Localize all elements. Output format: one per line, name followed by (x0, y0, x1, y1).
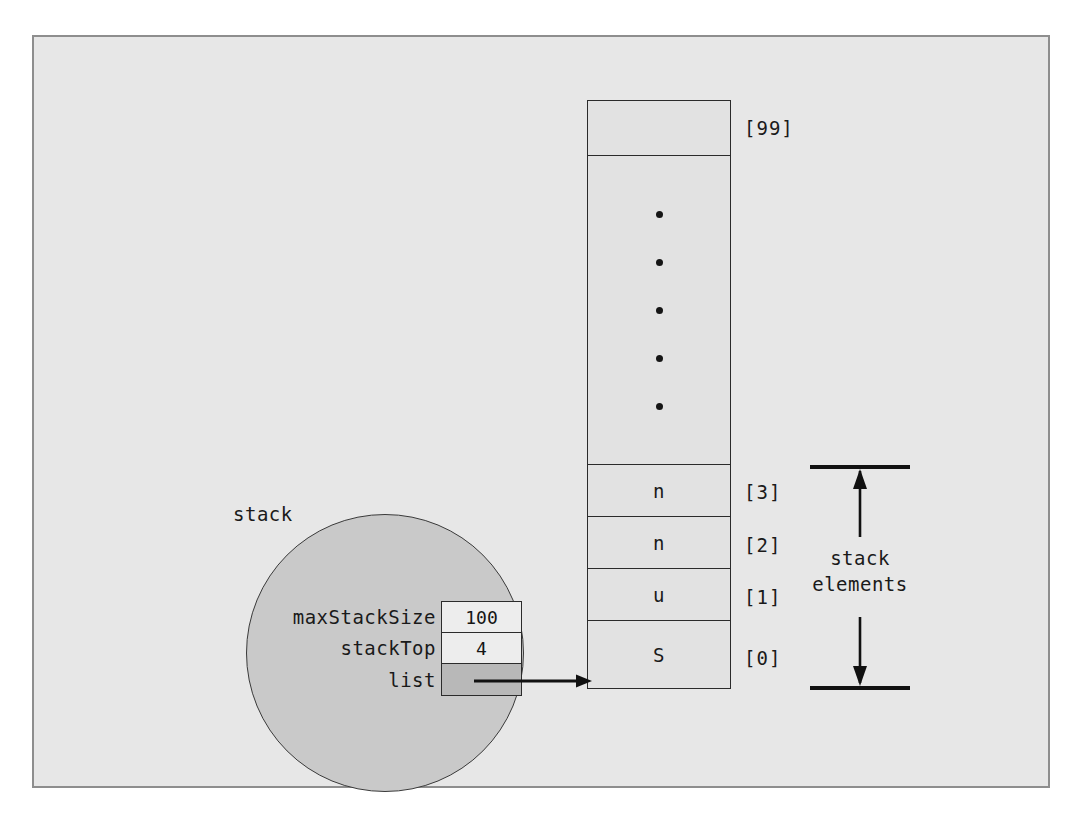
array-index-label-3: [3] (744, 481, 781, 503)
array-index-label-2: [2] (744, 534, 781, 556)
array-cell-0: S (587, 620, 731, 689)
field-row-maxstacksize: maxStackSize 100 (441, 601, 522, 633)
field-label-list: list (388, 669, 436, 691)
array-index-label-99: [99] (744, 117, 794, 139)
field-value-maxstacksize: 100 (465, 607, 498, 628)
array-column: n n u S (587, 100, 731, 689)
figure-frame: n n u S [99] [3] [2] [1] [0] stack maxSt… (32, 35, 1050, 788)
array-cell-3: n (587, 464, 731, 517)
array-cell-ellipsis (587, 155, 731, 465)
stack-elements-caption-line2: elements (796, 571, 924, 597)
stack-elements-caption: stack elements (796, 545, 924, 597)
array-index-label-1: [1] (744, 586, 781, 608)
stack-elements-caption-line1: stack (796, 545, 924, 571)
array-cell-2: n (587, 516, 731, 569)
array-cell-1: u (587, 568, 731, 621)
pointer-arrow-icon (474, 673, 592, 689)
field-label-maxstacksize: maxStackSize (293, 606, 436, 628)
array-cell-99 (587, 100, 731, 156)
stack-object-label: stack (233, 503, 293, 525)
field-label-stacktop: stackTop (340, 637, 436, 659)
array-index-label-0: [0] (744, 647, 781, 669)
field-value-stacktop: 4 (476, 638, 487, 659)
field-row-stacktop: stackTop 4 (441, 632, 522, 664)
